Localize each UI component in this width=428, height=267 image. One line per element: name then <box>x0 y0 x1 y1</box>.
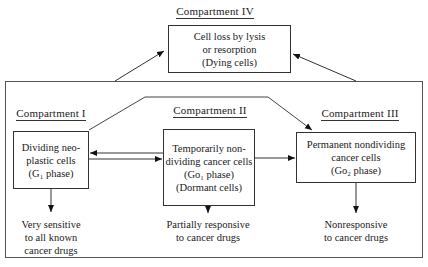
box-line: Cell loss by lysis <box>194 30 265 43</box>
box-line: Permanent nondividing <box>307 138 405 151</box>
compartment-ii-title: Compartment II <box>160 104 260 116</box>
box-line: (Go₁ phase) <box>184 168 234 181</box>
box-line: cancer cells <box>331 151 380 164</box>
box-line: Dividing neo- <box>22 141 81 154</box>
compartment-iii-response: Nonresponsive to cancer drugs <box>306 218 406 244</box>
compartment-i-title: Compartment I <box>5 107 97 119</box>
box-line: Temporarily non- <box>172 142 246 155</box>
box-line: (Dormant cells) <box>176 181 242 194</box>
compartment-iii-title: Compartment III <box>308 107 412 119</box>
compartment-ii-response: Partially responsive to cancer drugs <box>152 218 264 244</box>
compartment-i-response: Very sensitive to all known cancer drugs <box>6 218 96 257</box>
arrow-frame-to-iv-right <box>293 54 356 81</box>
box-line: (Dying cells) <box>202 56 257 69</box>
compartment-iv-title: Compartment IV <box>165 5 265 17</box>
arrow-frame-to-iv-left <box>115 51 164 81</box>
box-line: plastic cells <box>26 154 75 167</box>
compartment-i-box: Dividing neo- plastic cells (G₁ phase) <box>13 131 89 189</box>
box-line: (Go₂ phase) <box>331 164 381 177</box>
box-line: (G₁ phase) <box>29 167 74 180</box>
compartment-iv-box: Cell loss by lysis or resorption (Dying … <box>168 25 291 73</box>
compartment-iii-box: Permanent nondividing cancer cells (Go₂ … <box>296 132 416 183</box>
box-line: or resorption <box>203 43 257 56</box>
compartment-ii-box: Temporarily non- dividing cancer cells (… <box>163 129 255 206</box>
box-line: dividing cancer cells <box>166 155 253 168</box>
